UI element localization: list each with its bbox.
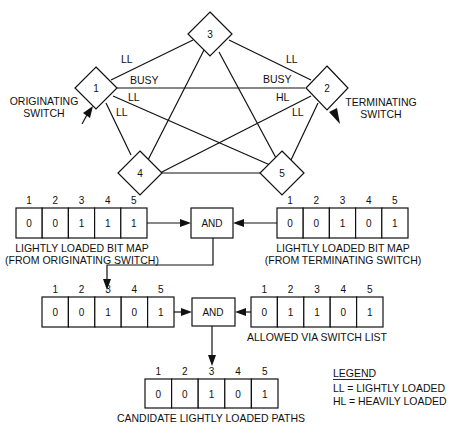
bitmap-bit-value: 0 xyxy=(341,307,347,318)
bitmap-index-label: 5 xyxy=(158,284,164,295)
switch-node-5: 5 xyxy=(260,151,304,195)
bitmap-bit-value: 1 xyxy=(392,218,398,229)
bitmap-bit-value: 1 xyxy=(105,307,111,318)
bitmap-bit-value: 1 xyxy=(367,307,373,318)
switch-node-1: 1 xyxy=(75,67,117,109)
terminating-label-line1: TERMINATING xyxy=(345,96,417,108)
bitmap-bit-value: 1 xyxy=(262,389,268,400)
candidate-bitmap-caption: CANDIDATE LIGHTLY LOADED PATHS xyxy=(117,412,305,424)
and-gate-1-label: AND xyxy=(201,218,222,229)
arrowhead-right-icon xyxy=(180,219,191,227)
edge-label-1-2-near-1: BUSY xyxy=(130,74,159,86)
bitmap-bit-value: 0 xyxy=(235,389,241,400)
terminating-bitmap-caption-1: LIGHTLY LOADED BIT MAP xyxy=(276,242,410,254)
edge-label-2-4: HL xyxy=(276,91,290,103)
bitmap-index-label: 1 xyxy=(26,195,32,206)
terminating-label-line2: SWITCH xyxy=(360,108,401,120)
originating-arrow-icon xyxy=(82,106,93,124)
arrowhead-left-icon xyxy=(235,308,246,316)
bitmap-index-label: 2 xyxy=(288,284,294,295)
bitmap-bit-value: 1 xyxy=(314,307,320,318)
switch-node-3: 3 xyxy=(188,12,232,56)
allowed-bitmap: 0112130415 xyxy=(251,284,383,327)
legend: LEGEND LL = LIGHTLY LOADED HL = HEAVILY … xyxy=(333,367,447,407)
and-gate-2-label: AND xyxy=(202,307,223,318)
bitmap-bit-value: 0 xyxy=(182,389,188,400)
edge-label-1-4: LL xyxy=(116,106,128,118)
originating-bitmap-caption-2: (FROM ORIGINATING SWITCH) xyxy=(5,254,159,266)
terminating-bitmap: 0102130415 xyxy=(277,195,408,238)
candidate-bitmap: 0102130415 xyxy=(145,366,278,408)
intermediate-bitmap: 0102130415 xyxy=(42,284,174,327)
bitmap-index-label: 3 xyxy=(79,195,85,206)
bitmap-index-label: 4 xyxy=(132,284,138,295)
routing-diagram: LL LL BUSY BUSY LL LL HL LL 3 1 2 4 5 OR… xyxy=(0,0,451,433)
bitmap-index-label: 4 xyxy=(235,366,241,377)
originating-label-line1: ORIGINATING xyxy=(10,95,79,107)
edge-label-1-2-near-2: BUSY xyxy=(263,73,292,85)
node-label-1: 1 xyxy=(93,83,99,94)
bitmap-index-label: 2 xyxy=(182,366,188,377)
originating-bitmap: 0102131415 xyxy=(16,195,147,238)
bitmap-bit-value: 0 xyxy=(132,307,138,318)
bitmap-index-label: 5 xyxy=(367,284,373,295)
bitmap-bit-value: 0 xyxy=(53,218,59,229)
edge-3-4 xyxy=(148,50,204,160)
bitmap-bit-value: 0 xyxy=(79,307,85,318)
edge-3-5 xyxy=(219,52,276,158)
originating-label-line2: SWITCH xyxy=(23,107,64,119)
bitmap-bit-value: 1 xyxy=(79,218,85,229)
bitmap-index-label: 2 xyxy=(314,195,320,206)
bitmap-index-label: 4 xyxy=(366,195,372,206)
bitmap-bit-value: 0 xyxy=(52,307,58,318)
bitmap-index-label: 1 xyxy=(287,195,293,206)
bitmap-bit-value: 1 xyxy=(288,307,294,318)
switch-node-2: 2 xyxy=(306,66,348,110)
bitmap-index-label: 1 xyxy=(52,284,58,295)
legend-hl: HL = HEAVILY LOADED xyxy=(333,395,447,407)
edge-label-1-5: LL xyxy=(128,91,140,103)
allowed-bitmap-caption: ALLOWED VIA SWITCH LIST xyxy=(247,331,388,343)
bitmap-index-label: 3 xyxy=(209,366,215,377)
legend-ll: LL = LIGHTLY LOADED xyxy=(333,382,446,394)
bitmap-index-label: 1 xyxy=(261,284,267,295)
and-gate-1: AND xyxy=(191,208,233,238)
arrowhead-down-icon xyxy=(208,355,216,366)
bitmap-bit-value: 1 xyxy=(340,218,346,229)
bitmap-index-label: 2 xyxy=(53,195,59,206)
legend-title: LEGEND xyxy=(333,367,377,379)
edge-label-1-3: LL xyxy=(121,53,133,65)
bitmap-bit-value: 0 xyxy=(314,218,320,229)
bitmap-index-label: 1 xyxy=(156,366,162,377)
and-gate-2: AND xyxy=(192,298,235,326)
edge-label-3-2: LL xyxy=(286,53,298,65)
bitmap-index-label: 5 xyxy=(262,366,268,377)
bitmap-index-label: 4 xyxy=(105,195,111,206)
bitmap-bit-value: 0 xyxy=(156,389,162,400)
originating-bitmap-caption-1: LIGHTLY LOADED BIT MAP xyxy=(15,242,149,254)
node-label-2: 2 xyxy=(324,83,330,94)
node-label-3: 3 xyxy=(207,29,213,40)
bitmap-bit-value: 1 xyxy=(158,307,164,318)
bitmap-index-label: 5 xyxy=(392,195,398,206)
arrowhead-right-icon xyxy=(181,308,192,316)
switch-node-4: 4 xyxy=(118,151,162,195)
terminating-arrow-icon xyxy=(329,108,340,124)
node-label-5: 5 xyxy=(279,168,285,179)
arrowhead-left-icon xyxy=(233,219,244,227)
bitmap-index-label: 5 xyxy=(131,195,137,206)
bitmap-index-label: 3 xyxy=(340,195,346,206)
node-label-4: 4 xyxy=(137,168,143,179)
bitmap-bit-value: 1 xyxy=(209,389,215,400)
bitmap-bit-value: 0 xyxy=(366,218,372,229)
bitmap-bit-value: 0 xyxy=(261,307,267,318)
bitmap-bit-value: 0 xyxy=(287,218,293,229)
bitmap-index-label: 3 xyxy=(314,284,320,295)
bitmap-bit-value: 1 xyxy=(131,218,137,229)
edge-label-2-5: LL xyxy=(292,106,304,118)
terminating-bitmap-caption-2: (FROM TERMINATING SWITCH) xyxy=(265,254,422,266)
bitmap-bit-value: 0 xyxy=(26,218,32,229)
bitmap-index-label: 2 xyxy=(79,284,85,295)
bitmap-index-label: 4 xyxy=(341,284,347,295)
bitmap-bit-value: 1 xyxy=(105,218,111,229)
